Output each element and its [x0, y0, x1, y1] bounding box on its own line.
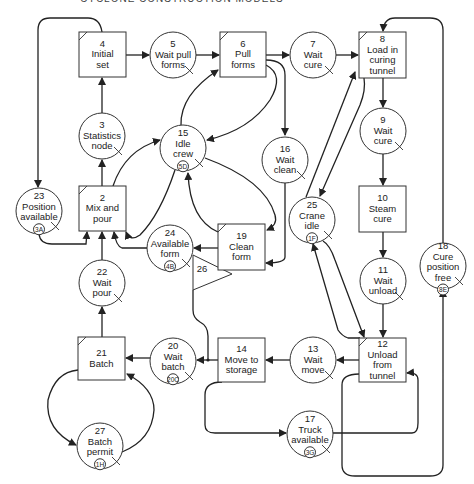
node-number: 19 [236, 230, 247, 241]
node-number: 6 [240, 38, 245, 49]
node-label: Truck [298, 424, 322, 435]
node-22[interactable]: 22Waitpour [79, 260, 125, 306]
node-20[interactable]: 20Waitbatch20C [150, 338, 196, 385]
node-label: form [232, 251, 251, 262]
node-number: 24 [165, 227, 176, 238]
node-label: curing [370, 54, 396, 65]
node-label: Batch [88, 436, 112, 447]
node-11[interactable]: 11Waitunload [360, 258, 406, 304]
node-label: Move to [225, 354, 259, 365]
node-15[interactable]: 15Idlecrew5D [160, 125, 206, 172]
node-label: permit [87, 446, 114, 457]
node-25[interactable]: 25Craneidle1F [289, 197, 335, 244]
node-number: 15 [178, 127, 189, 138]
edge-19-15 [188, 173, 218, 232]
node-21[interactable]: 21Batch [78, 337, 125, 380]
edge-24-2 [114, 232, 147, 248]
nodes-layer: 4Initialset5Wait pullforms6Pullforms7Wai… [16, 32, 466, 470]
cyclone-network-diagram: 26 4Initialset5Wait pullforms6Pullforms7… [0, 0, 474, 484]
node-number: 11 [378, 264, 388, 275]
counter-label: 26 [197, 263, 208, 274]
node-number: 27 [95, 425, 106, 436]
node-label: Crane [299, 210, 325, 221]
node-label: available [20, 211, 58, 222]
edge-23-2 [39, 232, 87, 244]
node-number: 9 [380, 114, 385, 125]
node-label: cure [304, 59, 322, 70]
node-label: Idle [175, 138, 190, 149]
node-label: Available [151, 238, 189, 249]
node-8[interactable]: 8Load incuringtunnel [359, 32, 406, 78]
node-12[interactable]: 12Unloadfromtunnel [359, 338, 406, 382]
edge-26-counter [193, 290, 208, 360]
resource-count: 3A [35, 226, 44, 233]
node-9[interactable]: 9Waitcure [360, 108, 406, 154]
node-number: 18 [438, 240, 449, 251]
node-label: pour [92, 287, 111, 298]
node-label: free [435, 272, 451, 283]
node-18[interactable]: 18Curepositionfree8E [420, 240, 466, 295]
node-24[interactable]: 24Availableform4B [147, 225, 193, 272]
node-label: idle [305, 220, 320, 231]
node-16[interactable]: 16Waitclean [262, 137, 308, 183]
edge-6-16 [266, 60, 285, 135]
node-4[interactable]: 4Initialset [79, 32, 126, 77]
edge-15-6 [181, 70, 218, 125]
node-label: forms [161, 59, 185, 70]
node-23[interactable]: 23Positionavailable3A [16, 188, 62, 235]
node-label: position [427, 261, 460, 272]
node-label: form [161, 248, 180, 259]
node-3[interactable]: 3Statisticsnode [79, 113, 125, 159]
node-label: Mix and [86, 202, 119, 213]
node-label: Batch [89, 358, 113, 369]
node-number: 2 [100, 192, 105, 203]
node-number: 25 [307, 199, 318, 210]
node-label: pour [93, 213, 112, 224]
node-label: Steam [369, 203, 397, 214]
node-label: node [91, 140, 112, 151]
node-number: 4 [100, 38, 105, 49]
node-number: 10 [377, 192, 388, 203]
node-label: Statistics [83, 130, 121, 141]
resource-count: 5D [179, 163, 188, 170]
edge-14-17 [205, 382, 286, 433]
node-label: available [291, 434, 329, 445]
node-27[interactable]: 27Batchpermit1H [77, 423, 123, 470]
node-2[interactable]: 2Mix andpour [79, 186, 126, 231]
node-number: 3 [99, 119, 104, 130]
node-label: from [373, 359, 392, 370]
node-number: 22 [97, 266, 108, 277]
node-5[interactable]: 5Wait pullforms [150, 32, 196, 78]
node-number: 16 [280, 143, 291, 154]
edge-12-25 [313, 244, 360, 338]
node-label: Wait pull [155, 49, 191, 60]
resource-count: 20C [167, 376, 179, 383]
node-label: Unload [367, 349, 397, 360]
resource-count: 3G [306, 449, 315, 456]
node-number: 12 [377, 338, 388, 349]
edge-21-27 [48, 370, 78, 445]
node-6[interactable]: 6Pullforms [220, 32, 266, 77]
node-17[interactable]: 17Truckavailable3G [287, 411, 333, 458]
node-label: cure [374, 135, 392, 146]
node-label: forms [231, 59, 255, 70]
node-14[interactable]: 14Move tostorage [218, 338, 265, 382]
node-13[interactable]: 13Waitmove [290, 337, 336, 383]
node-label: Wait [374, 125, 393, 136]
node-number: 13 [308, 343, 319, 354]
node-label: Wait [304, 354, 323, 365]
node-label: tunnel [370, 370, 396, 381]
edge-8-25 [320, 78, 365, 196]
node-label: batch [161, 361, 184, 372]
node-label: move [301, 364, 324, 375]
node-label: unload [369, 285, 398, 296]
node-19[interactable]: 19Cleanform [218, 224, 265, 270]
node-number: 5 [170, 38, 175, 49]
node-number: 20 [168, 340, 179, 351]
node-10[interactable]: 10Steamcure [359, 186, 406, 232]
node-7[interactable]: 7Waitcure [290, 32, 336, 78]
edge-25-12 [323, 241, 364, 337]
node-number: 8 [380, 33, 385, 44]
node-label: Pull [235, 48, 251, 59]
edge-27-21 [122, 374, 154, 452]
